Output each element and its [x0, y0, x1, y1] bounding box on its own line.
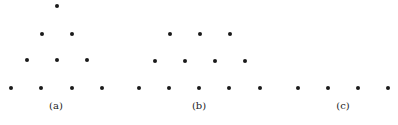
dot: [167, 86, 171, 90]
panel-label-b: (b): [192, 100, 206, 111]
dot: [296, 86, 300, 90]
dot: [9, 86, 13, 90]
panel-label-c: (c): [336, 100, 349, 111]
dot-pattern-figure: (a) (b) (c): [0, 0, 398, 125]
dot: [356, 86, 360, 90]
dot: [213, 59, 217, 63]
dot: [137, 86, 141, 90]
dot: [70, 86, 74, 90]
dot: [326, 86, 330, 90]
dot: [386, 86, 390, 90]
dot: [228, 32, 232, 36]
dot: [183, 59, 187, 63]
dot: [40, 32, 44, 36]
panel-label-a: (a): [49, 100, 63, 111]
dot: [258, 86, 262, 90]
dot: [55, 58, 59, 62]
dot: [25, 58, 29, 62]
dot: [100, 86, 104, 90]
dot: [197, 86, 201, 90]
dot: [198, 32, 202, 36]
dot: [55, 4, 59, 8]
dot: [168, 32, 172, 36]
dot: [70, 32, 74, 36]
dot: [39, 86, 43, 90]
dot: [243, 59, 247, 63]
dot: [153, 59, 157, 63]
dot: [227, 86, 231, 90]
dot: [85, 58, 89, 62]
